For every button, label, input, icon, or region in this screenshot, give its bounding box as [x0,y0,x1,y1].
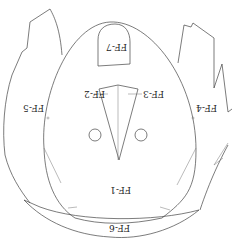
right-guide [177,148,196,185]
right-zigzag [214,143,228,165]
right-short-guide [160,207,170,210]
ff4-lower-outline [200,145,228,210]
left-dot [47,117,49,119]
left-short-guide [68,207,77,208]
label-ff7: FF-7 [106,42,127,52]
label-ff2: FF-2 [84,89,105,99]
label-ff1: FF-1 [110,185,131,195]
label-ff3: FF-3 [143,89,164,99]
right-eye-circle [135,129,147,141]
label-ff6: FF-6 [109,223,130,233]
left-guide [44,148,61,183]
left-eye-circle [89,129,101,141]
label-ff4: FF-4 [196,103,217,113]
flap-diagram: FF-7 FF-2 FF-3 FF-5 FF-4 FF-1 FF-6 [0,0,244,240]
label-ff5: FF-5 [23,103,44,113]
ff4-outline [178,23,232,112]
